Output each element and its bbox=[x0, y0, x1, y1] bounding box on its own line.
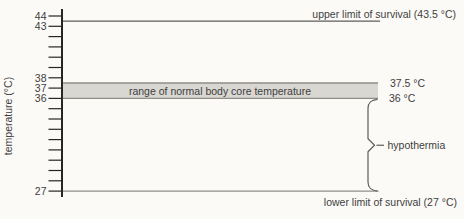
y-axis-tick-label: 38 bbox=[35, 72, 47, 84]
chart-rendered-layer: 273637384344 bbox=[35, 9, 384, 197]
hypothermia-label: hypothermia bbox=[388, 139, 446, 151]
upper-limit-label: upper limit of survival (43.5 °C) bbox=[312, 8, 456, 20]
lower-limit-label: lower limit of survival (27 °C) bbox=[324, 196, 457, 208]
band-low-edge-label: 36 °C bbox=[389, 92, 416, 104]
y-axis-tick-label: 27 bbox=[35, 185, 47, 197]
y-axis-tick-label: 36 bbox=[35, 92, 47, 104]
y-axis-label: temperature (°C) bbox=[2, 77, 14, 155]
band-high-edge-label: 37.5 °C bbox=[390, 77, 426, 89]
y-axis-tick-label: 43 bbox=[35, 20, 47, 32]
normal-band-label: range of normal body core temperature bbox=[129, 85, 311, 97]
y-axis-tick-label: 37 bbox=[35, 82, 47, 94]
y-axis-tick-label: 44 bbox=[35, 10, 47, 22]
chart-svg: 273637384344 temperature (°C) upper limi… bbox=[0, 0, 464, 219]
hypothermia-brace bbox=[368, 99, 378, 191]
temperature-survival-diagram: 273637384344 temperature (°C) upper limi… bbox=[0, 0, 464, 219]
